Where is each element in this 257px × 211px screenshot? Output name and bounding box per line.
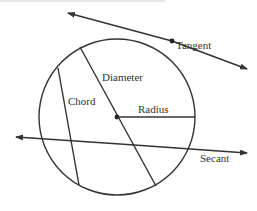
tangent-line	[68, 13, 172, 41]
chord-line	[58, 68, 79, 185]
diameter-label: Diameter	[102, 71, 143, 83]
clipped-caption	[0, 0, 165, 2]
secant-line-left	[16, 137, 120, 144]
tangent-point	[170, 39, 175, 44]
secant-label: Secant	[200, 152, 229, 164]
chord-label: Chord	[68, 95, 96, 107]
radius-label: Radius	[138, 103, 169, 115]
tangent-label: Tangent	[176, 39, 211, 51]
circle-parts-diagram: Tangent Diameter Chord Radius Secant	[0, 0, 257, 211]
